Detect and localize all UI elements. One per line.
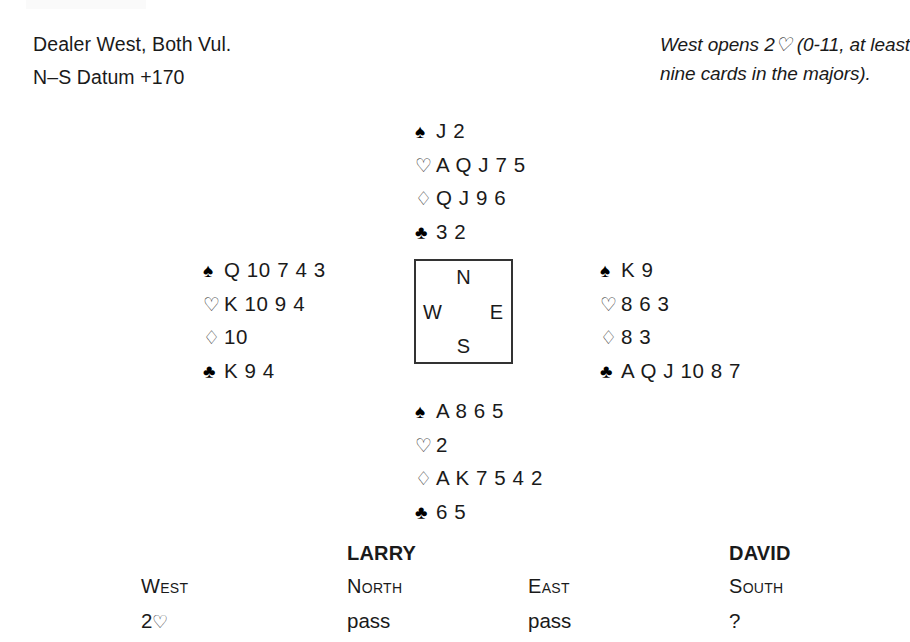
hand-diagram: ♠ J 2 ♡ A Q J 7 5 ♢ Q J 9 6 ♣ 3 2 ♠ Q 10… [0, 0, 906, 540]
heart-icon: ♡ [152, 612, 168, 632]
club-icon: ♣ [600, 355, 621, 389]
south-clubs: 6 5 [436, 495, 466, 529]
bid-south: ? [729, 604, 791, 637]
north-hearts: A Q J 7 5 [436, 148, 526, 182]
auction-column-west: West 2♡ [141, 538, 188, 637]
east-heart-row: ♡ 8 6 3 [600, 287, 741, 321]
bid-north: pass [347, 604, 416, 637]
compass-east-label: E [490, 302, 503, 322]
diamond-icon: ♢ [203, 321, 224, 355]
west-club-row: ♣ K 9 4 [203, 354, 326, 388]
spade-icon: ♠ [203, 254, 224, 288]
player-name-south: DAVID [729, 538, 791, 569]
compass-north-label: N [456, 267, 470, 287]
west-diamonds: 10 [224, 320, 248, 354]
spade-icon: ♠ [415, 115, 436, 149]
north-clubs: 3 2 [436, 215, 466, 249]
club-icon: ♣ [203, 355, 224, 389]
seat-label-east: East [528, 569, 571, 604]
spade-icon: ♠ [600, 254, 621, 288]
hand-south: ♠ A 8 6 5 ♡ 2 ♢ A K 7 5 4 2 ♣ 6 5 [415, 394, 543, 528]
bid-west: 2♡ [141, 604, 188, 637]
north-spade-row: ♠ J 2 [415, 114, 526, 148]
south-club-row: ♣ 6 5 [415, 495, 543, 529]
compass-box: N W E S [414, 259, 513, 364]
heart-icon: ♡ [600, 288, 621, 322]
north-heart-row: ♡ A Q J 7 5 [415, 148, 526, 182]
bid-south-call: ? [729, 609, 740, 632]
compass-south-label: S [457, 336, 470, 356]
east-diamonds: 8 3 [621, 320, 651, 354]
east-spades: K 9 [621, 253, 654, 287]
diamond-icon: ♢ [600, 321, 621, 355]
west-diamond-row: ♢ 10 [203, 320, 326, 354]
north-diamond-row: ♢ Q J 9 6 [415, 181, 526, 215]
bid-east-call: pass [528, 609, 571, 632]
west-hearts: K 10 9 4 [224, 287, 305, 321]
south-diamonds: A K 7 5 4 2 [436, 461, 543, 495]
north-club-row: ♣ 3 2 [415, 215, 526, 249]
compass-west-label: W [423, 302, 442, 322]
hand-north: ♠ J 2 ♡ A Q J 7 5 ♢ Q J 9 6 ♣ 3 2 [415, 114, 526, 248]
auction-column-north: LARRY North pass [347, 538, 416, 637]
south-diamond-row: ♢ A K 7 5 4 2 [415, 461, 543, 495]
seat-label-south: South [729, 569, 791, 604]
auction-column-east: East pass [528, 538, 571, 637]
auction-column-south: DAVID South ? [729, 538, 791, 637]
west-spade-row: ♠ Q 10 7 4 3 [203, 253, 326, 287]
hand-west: ♠ Q 10 7 4 3 ♡ K 10 9 4 ♢ 10 ♣ K 9 4 [203, 253, 326, 387]
spade-icon: ♠ [415, 395, 436, 429]
bid-north-call: pass [347, 609, 390, 632]
bid-west-level: 2 [141, 609, 152, 632]
heart-icon: ♡ [415, 429, 436, 463]
club-icon: ♣ [415, 496, 436, 530]
east-spade-row: ♠ K 9 [600, 253, 741, 287]
seat-label-north: North [347, 569, 416, 604]
south-heart-row: ♡ 2 [415, 428, 543, 462]
diamond-icon: ♢ [415, 462, 436, 496]
south-spade-row: ♠ A 8 6 5 [415, 394, 543, 428]
east-club-row: ♣ A Q J 10 8 7 [600, 354, 741, 388]
south-hearts: 2 [436, 428, 448, 462]
west-heart-row: ♡ K 10 9 4 [203, 287, 326, 321]
south-spades: A 8 6 5 [436, 394, 504, 428]
east-hearts: 8 6 3 [621, 287, 670, 321]
player-name-north: LARRY [347, 538, 416, 569]
north-spades: J 2 [436, 114, 465, 148]
north-diamonds: Q J 9 6 [436, 181, 506, 215]
heart-icon: ♡ [203, 288, 224, 322]
hand-east: ♠ K 9 ♡ 8 6 3 ♢ 8 3 ♣ A Q J 10 8 7 [600, 253, 741, 387]
bid-east: pass [528, 604, 571, 637]
diamond-icon: ♢ [415, 182, 436, 216]
heart-icon: ♡ [415, 149, 436, 183]
east-clubs: A Q J 10 8 7 [621, 354, 741, 388]
west-spades: Q 10 7 4 3 [224, 253, 326, 287]
east-diamond-row: ♢ 8 3 [600, 320, 741, 354]
seat-label-west: West [141, 569, 188, 604]
club-icon: ♣ [415, 216, 436, 250]
west-clubs: K 9 4 [224, 354, 275, 388]
